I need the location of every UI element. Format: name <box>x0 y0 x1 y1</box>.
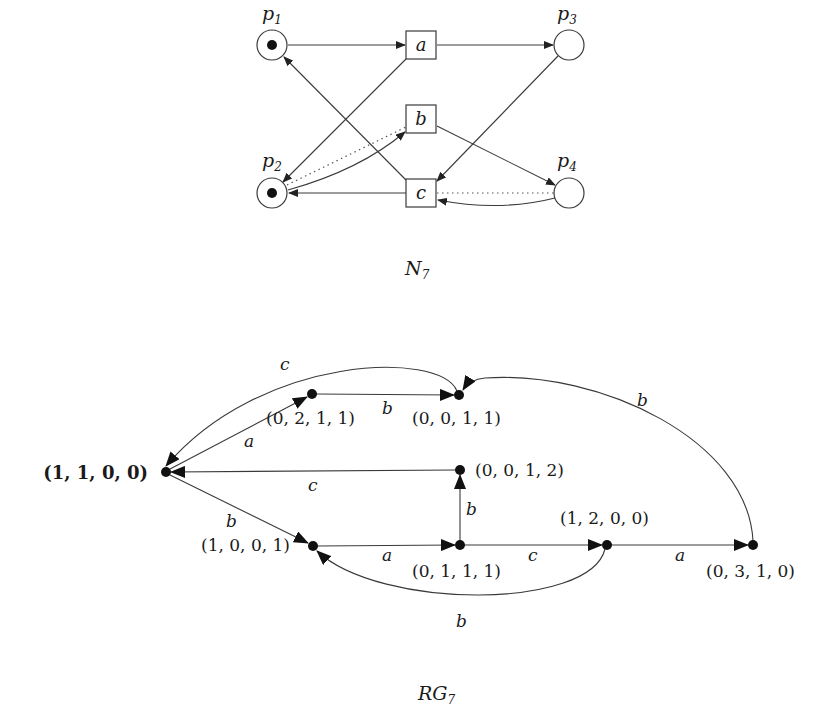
marking-node-0310: (0, 3, 1, 0) <box>706 540 795 581</box>
marking-node-0111: (0, 1, 1, 1) <box>412 540 501 581</box>
reachability-graph: a b c c b a b c b <box>43 354 795 706</box>
marking-node-0211: (0, 2, 1, 1) <box>266 389 355 428</box>
place-label: p4 <box>557 149 577 174</box>
arc-p4-to-c <box>438 198 555 206</box>
place-p4: p4 <box>554 149 584 208</box>
reachability-graph-caption: RG7 <box>417 682 455 706</box>
edge-label: b <box>226 511 237 531</box>
arc-b-to-p4 <box>437 126 555 185</box>
arc-p2-b-dotted <box>287 127 406 185</box>
arc-p3-to-c <box>437 56 558 181</box>
token-dot <box>267 188 277 198</box>
edge-label: c <box>280 354 290 374</box>
edge-label: a <box>382 545 392 565</box>
marking-label: (1, 0, 0, 1) <box>201 535 290 555</box>
marking-node-1200: (1, 2, 0, 0) <box>560 508 649 550</box>
edge-label: b <box>382 398 393 418</box>
marking-label: (1, 1, 0, 0) <box>43 462 148 483</box>
marking-label: (0, 0, 1, 1) <box>412 408 501 428</box>
petri-net: p1 p2 p3 p4 a b c N7 <box>257 2 584 282</box>
edge-c-0012-to-1100 <box>171 470 456 472</box>
edge-label: c <box>308 475 318 495</box>
place-p3: p3 <box>554 2 584 60</box>
token-dot <box>267 40 277 50</box>
marking-dot <box>602 540 612 550</box>
marking-dot <box>748 540 758 550</box>
place-circle <box>554 30 584 60</box>
marking-dot <box>308 541 318 551</box>
marking-dot <box>455 465 465 475</box>
place-p2: p2 <box>257 149 287 208</box>
marking-label: (0, 2, 1, 1) <box>266 408 355 428</box>
edge-b-0211-to-0011 <box>316 394 454 395</box>
figure-canvas: p1 p2 p3 p4 a b c N7 <box>0 0 835 706</box>
edge-label: b <box>456 611 467 631</box>
edge-label: a <box>675 545 685 565</box>
marking-dot <box>455 540 465 550</box>
place-label: p2 <box>262 149 282 174</box>
marking-node-1100: (1, 1, 0, 0) <box>43 462 171 483</box>
petri-net-caption: N7 <box>404 257 430 282</box>
transition-label: a <box>416 34 427 55</box>
marking-label: (0, 1, 1, 1) <box>412 561 501 581</box>
arc-c-to-p1 <box>284 57 406 180</box>
edge-label: b <box>466 499 477 519</box>
transition-b: b <box>406 105 436 133</box>
marking-dot <box>454 390 464 400</box>
marking-dot <box>161 467 171 477</box>
transition-label: c <box>416 182 426 203</box>
marking-label: (0, 0, 1, 2) <box>475 460 564 480</box>
edge-label: b <box>637 390 648 410</box>
marking-node-0012: (0, 0, 1, 2) <box>455 460 564 480</box>
marking-label: (1, 2, 0, 0) <box>560 508 649 528</box>
place-p1: p1 <box>257 2 287 60</box>
marking-dot <box>307 389 317 399</box>
place-label: p1 <box>262 2 282 27</box>
place-label: p3 <box>557 2 577 27</box>
edge-label: c <box>528 545 538 565</box>
transition-a: a <box>406 31 436 59</box>
marking-node-0011: (0, 0, 1, 1) <box>412 390 501 428</box>
marking-label: (0, 3, 1, 0) <box>706 561 795 581</box>
transition-c: c <box>406 179 436 207</box>
edge-b-1100-to-1001 <box>170 475 308 543</box>
arc-a-to-p2 <box>283 59 406 182</box>
marking-node-1001: (1, 0, 0, 1) <box>201 535 318 555</box>
edge-label: a <box>244 431 254 451</box>
place-circle <box>554 178 584 208</box>
transition-label: b <box>415 108 427 129</box>
